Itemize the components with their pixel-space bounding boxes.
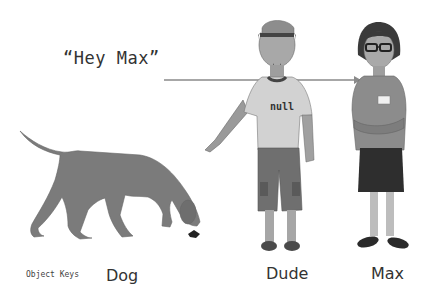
label-dude: Dude bbox=[266, 264, 308, 283]
dog-object-icon bbox=[188, 230, 200, 238]
dog-figure bbox=[20, 131, 200, 239]
label-dog: Dog bbox=[106, 266, 138, 285]
max-figure bbox=[352, 22, 410, 251]
legend-object-keys: Object Keys bbox=[26, 270, 79, 279]
shirt-text: null bbox=[270, 101, 294, 112]
label-max: Max bbox=[371, 264, 404, 283]
illustration: null bbox=[0, 0, 434, 304]
dude-figure bbox=[205, 21, 314, 252]
quote-text: “Hey Max” bbox=[63, 48, 160, 68]
